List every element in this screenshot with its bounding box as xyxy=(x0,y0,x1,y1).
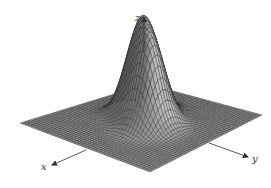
surface-mesh xyxy=(20,15,262,172)
x-axis xyxy=(52,150,86,165)
x-axis-label: x xyxy=(41,161,47,172)
y-axis xyxy=(209,143,248,157)
z-axis-label: z xyxy=(134,12,141,23)
y-axis-label: y xyxy=(251,153,258,164)
surface-plot: z x y xyxy=(0,0,271,188)
